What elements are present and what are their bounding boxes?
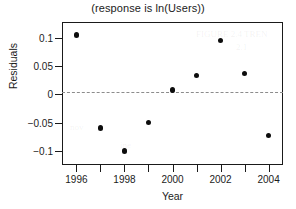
x-axis-tick-label: 1998 bbox=[113, 174, 135, 185]
x-axis-tick bbox=[100, 165, 101, 172]
x-axis-tick bbox=[245, 165, 246, 172]
x-axis-tick bbox=[173, 165, 174, 172]
x-axis-tick bbox=[221, 165, 222, 172]
y-axis-tick-label: −0.1 bbox=[33, 145, 53, 156]
y-axis-tick bbox=[55, 123, 62, 124]
x-axis-tick bbox=[197, 165, 198, 172]
plot-area-frame bbox=[62, 22, 283, 165]
data-point bbox=[122, 148, 128, 154]
y-axis-tick-label: 0.05 bbox=[34, 61, 53, 72]
x-axis-label: Year bbox=[62, 190, 283, 202]
y-axis-tick bbox=[55, 66, 62, 67]
x-axis-tick-label: 2004 bbox=[257, 174, 279, 185]
y-axis-tick bbox=[55, 151, 62, 152]
y-axis-tick-label: −0.05 bbox=[28, 117, 53, 128]
x-axis-tick-label: 1996 bbox=[65, 174, 87, 185]
y-axis-label: Residuals bbox=[7, 31, 19, 101]
y-axis-tick-label: 0 bbox=[47, 89, 53, 100]
x-axis-tick bbox=[124, 165, 125, 172]
x-axis-tick bbox=[148, 165, 149, 172]
residuals-scatter-chart: (response is ln(Users)) Residuals Year 0… bbox=[0, 0, 296, 209]
chart-title: (response is ln(Users)) bbox=[0, 2, 296, 14]
x-axis-tick bbox=[269, 165, 270, 172]
y-axis-tick-label: 0.1 bbox=[39, 32, 53, 43]
y-axis-tick bbox=[55, 94, 62, 95]
x-axis-tick-label: 2000 bbox=[161, 174, 183, 185]
data-point bbox=[170, 87, 176, 93]
y-axis-tick bbox=[55, 38, 62, 39]
x-axis-tick bbox=[76, 165, 77, 172]
data-point bbox=[74, 32, 80, 38]
x-axis-tick-label: 2002 bbox=[209, 174, 231, 185]
